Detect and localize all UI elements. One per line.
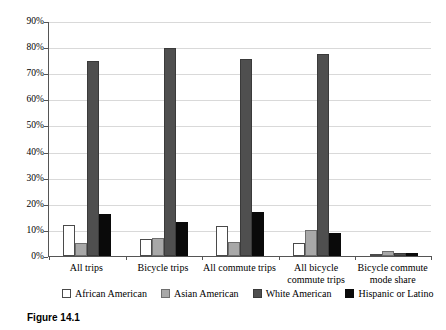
bar: [317, 54, 329, 256]
y-axis-tick-label: 50%: [0, 121, 44, 130]
bar: [305, 230, 317, 256]
y-axis-tick-label: 10%: [0, 226, 44, 235]
y-axis-tick-label: 0%: [0, 252, 44, 261]
legend-label: White American: [266, 288, 332, 299]
x-axis-category-label: All commute trips: [201, 262, 278, 274]
bar-group: [49, 21, 126, 256]
legend-swatch: [62, 289, 71, 298]
bar: [164, 48, 176, 256]
legend-label: Asian American: [174, 288, 239, 299]
y-axis-tick-label: 70%: [0, 69, 44, 78]
y-axis-tick-label: 40%: [0, 148, 44, 157]
y-axis-tick-label: 60%: [0, 95, 44, 104]
bar: [63, 225, 75, 256]
bar: [394, 253, 406, 256]
figure-caption: Figure 14.1: [27, 312, 80, 323]
legend-item: African American: [62, 288, 147, 299]
bar-group: [355, 21, 432, 256]
legend-label: Hispanic or Latino: [358, 288, 433, 299]
bar: [152, 238, 164, 256]
y-axis-tick-label: 90%: [0, 17, 44, 26]
bar: [75, 243, 87, 256]
bar-group: [126, 21, 203, 256]
bar: [370, 254, 382, 256]
bar: [240, 59, 252, 256]
legend-swatch: [161, 289, 170, 298]
bar: [176, 222, 188, 256]
bar: [329, 233, 341, 257]
x-axis-tick-mark: [431, 256, 432, 260]
x-axis-category-label: Bicycle commute mode share: [354, 262, 431, 286]
x-axis-tick-mark: [355, 256, 356, 260]
x-axis-category-label: Bicycle trips: [125, 262, 202, 274]
bar-group-bars: [279, 21, 356, 256]
bar-group-bars: [202, 21, 279, 256]
bar: [216, 226, 228, 256]
bar: [293, 243, 305, 256]
chart-legend: African AmericanAsian AmericanWhite Amer…: [62, 288, 433, 299]
x-axis-category-label: All trips: [48, 262, 125, 274]
bar-group: [202, 21, 279, 256]
bar-group-bars: [126, 21, 203, 256]
bar-group: [279, 21, 356, 256]
plot-area: [48, 22, 431, 257]
y-axis-tick-label: 30%: [0, 174, 44, 183]
x-axis-tick-mark: [126, 256, 127, 260]
y-axis-tick-label: 80%: [0, 43, 44, 52]
legend-item: White American: [253, 288, 332, 299]
bar: [228, 242, 240, 256]
legend-item: Asian American: [161, 288, 239, 299]
y-axis-tick-label: 20%: [0, 200, 44, 209]
bar: [140, 239, 152, 256]
bar-group-bars: [355, 21, 432, 256]
x-axis-tick-mark: [279, 256, 280, 260]
bar: [252, 212, 264, 256]
figure-container: 0%10%20%30%40%50%60%70%80%90% All tripsB…: [0, 0, 446, 330]
legend-swatch: [345, 289, 354, 298]
bar: [406, 253, 418, 256]
bar: [87, 61, 99, 256]
legend-swatch: [253, 289, 262, 298]
bar-group-bars: [49, 21, 126, 256]
y-axis-tick-mark: [44, 257, 48, 258]
x-axis-category-label: All bicycle commute trips: [278, 262, 355, 286]
x-axis-tick-mark: [202, 256, 203, 260]
legend-label: African American: [75, 288, 147, 299]
legend-item: Hispanic or Latino: [345, 288, 433, 299]
bar: [99, 214, 111, 256]
bar: [382, 251, 394, 256]
x-axis-tick-mark: [49, 256, 50, 260]
